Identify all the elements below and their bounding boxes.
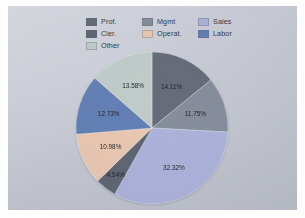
- legend-item-sales[interactable]: Sales: [198, 17, 254, 26]
- pie-slice-label: 4.54%: [107, 171, 125, 178]
- pie-chart: 14.11%11.75%32.32%4.54%10.98%12.73%13.58…: [74, 50, 230, 206]
- legend-row: Cler. Operat. Labor: [86, 28, 254, 39]
- legend-item-other[interactable]: Other: [86, 41, 142, 50]
- legend-item-operat[interactable]: Operat.: [142, 29, 198, 38]
- pie-slice-label: 32.32%: [163, 164, 185, 171]
- legend-item-prof[interactable]: Prof.: [86, 17, 142, 26]
- legend-swatch-operat: [142, 30, 153, 38]
- legend-item-cler[interactable]: Cler.: [86, 29, 142, 38]
- pie-slice-label: 14.11%: [161, 83, 183, 90]
- legend-label-sales: Sales: [213, 17, 231, 26]
- legend-label-prof: Prof.: [101, 17, 117, 26]
- chart-frame: Prof. Mgmt Sales Cler. Operat: [8, 6, 297, 210]
- screenshot-root: Prof. Mgmt Sales Cler. Operat: [0, 0, 305, 218]
- legend-row: Prof. Mgmt Sales: [86, 16, 254, 27]
- pie-slices: [76, 52, 228, 204]
- legend-swatch-cler: [86, 30, 97, 38]
- legend-swatch-other: [86, 42, 97, 50]
- legend-swatch-labor: [198, 30, 209, 38]
- pie-slice-label: 10.98%: [100, 143, 122, 150]
- pie-chart-svg: 14.11%11.75%32.32%4.54%10.98%12.73%13.58…: [74, 50, 230, 206]
- legend-label-cler: Cler.: [101, 29, 116, 38]
- legend-item-labor[interactable]: Labor: [198, 29, 254, 38]
- legend-swatch-mgmt: [142, 18, 153, 26]
- pie-slice-label: 13.58%: [122, 82, 144, 89]
- chart-legend: Prof. Mgmt Sales Cler. Operat: [86, 16, 254, 52]
- legend-swatch-sales: [198, 18, 209, 26]
- legend-label-operat: Operat.: [157, 29, 182, 38]
- legend-swatch-prof: [86, 18, 97, 26]
- legend-label-labor: Labor: [213, 29, 232, 38]
- pie-slice-label: 12.73%: [98, 110, 120, 117]
- legend-label-other: Other: [101, 41, 119, 50]
- legend-label-mgmt: Mgmt: [157, 17, 175, 26]
- legend-item-mgmt[interactable]: Mgmt: [142, 17, 198, 26]
- pie-slice-label: 11.75%: [185, 110, 207, 117]
